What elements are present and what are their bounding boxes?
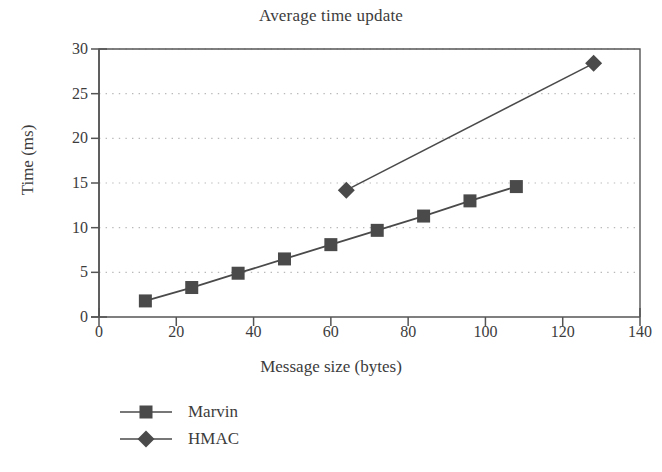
data-series-layer <box>139 55 602 308</box>
plot-area <box>0 0 662 472</box>
marker-square <box>371 224 384 237</box>
legend-marker-square-icon <box>118 402 174 422</box>
axes <box>91 49 640 326</box>
marker-square <box>140 405 153 418</box>
legend-label-marvin: Marvin <box>188 402 238 422</box>
chart-figure: Average time update Time (ms) Message si… <box>0 0 662 472</box>
marker-square <box>232 267 245 280</box>
series-line-hmac <box>346 63 593 190</box>
plot-frame <box>99 49 640 317</box>
marker-diamond <box>338 182 355 199</box>
marker-square <box>139 294 152 307</box>
marker-square <box>417 210 430 223</box>
series-marvin <box>139 180 523 307</box>
gridlines <box>99 49 640 272</box>
legend-label-hmac: HMAC <box>188 429 239 449</box>
marker-diamond <box>585 55 602 72</box>
marker-square <box>324 238 337 251</box>
marker-square <box>510 180 523 193</box>
marker-diamond <box>138 430 155 447</box>
marker-square <box>278 252 291 265</box>
chart-legend: MarvinHMAC <box>118 398 239 452</box>
legend-item-hmac[interactable]: HMAC <box>118 425 239 452</box>
marker-square <box>463 194 476 207</box>
plot-border <box>99 49 640 317</box>
series-hmac <box>338 55 602 199</box>
legend-marker-diamond-icon <box>118 429 174 449</box>
marker-square <box>185 281 198 294</box>
legend-item-marvin[interactable]: Marvin <box>118 398 239 425</box>
